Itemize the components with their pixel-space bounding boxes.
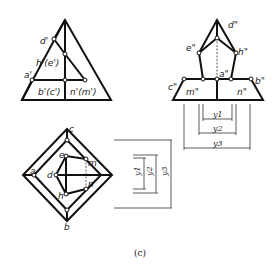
label-c-dbl: c" [168, 82, 177, 92]
point-n-prime [83, 78, 87, 82]
figure-caption: (c) [134, 248, 146, 258]
label-b-dbl: b" [255, 76, 265, 86]
side-view: d" e" h" a" c" b" m" n" y1 y2 y3 [168, 20, 265, 150]
point-h-prime [63, 52, 67, 56]
label-h-e-prime: h'(e') [36, 58, 59, 68]
top-dimensions: y1 y2 y3 [114, 140, 172, 208]
label-b-c-prime: b'(c') [38, 87, 61, 97]
dim-y2-side: y2 [212, 124, 223, 133]
label-h-dbl: h" [238, 47, 248, 57]
side-dimensions: y1 y2 y3 [184, 104, 250, 150]
point-mid-prime [63, 78, 67, 82]
dim-y3-top: y3 [160, 166, 169, 177]
point-d [54, 173, 58, 177]
point-base-left-dbl [201, 77, 205, 81]
label-n: n [88, 179, 94, 189]
label-d-dbl: d" [228, 20, 238, 30]
label-e: e [59, 150, 65, 160]
label-c: c [69, 124, 74, 134]
point-c-inner [65, 138, 69, 142]
point-d-dbl [215, 36, 219, 40]
label-n-m-prime: n'(m') [70, 87, 96, 97]
point-base-right-dbl [229, 77, 233, 81]
label-e-dbl: e" [186, 43, 196, 53]
label-d: d [47, 170, 53, 180]
dim-y3-side: y3 [212, 139, 223, 148]
point-b-inner [65, 208, 69, 212]
label-m-dbl: m" [186, 87, 199, 97]
label-h: h [58, 191, 64, 201]
label-a-prime: a' [24, 70, 32, 80]
label-a-dbl: a" [219, 69, 229, 79]
label-d-prime: d' [40, 36, 48, 46]
point-b-dbl [249, 77, 253, 81]
label-n-dbl: n" [237, 87, 247, 97]
point-e-dbl [197, 51, 201, 55]
point-h [64, 192, 68, 196]
point-c-dbl [182, 77, 186, 81]
label-a: a [30, 166, 36, 176]
front-view: d' h'(e') a' b'(c') n'(m') [22, 20, 111, 100]
point-e [64, 154, 68, 158]
front-left-edge [22, 80, 32, 100]
dim-y1-side: y1 [212, 110, 223, 119]
projection-drawing: d' h'(e') a' b'(c') n'(m') d" e" h" a" c… [0, 0, 280, 269]
label-b: b [64, 222, 70, 232]
label-m: m [88, 158, 97, 168]
top-view: c a e m d n h b y1 y2 y3 [23, 124, 172, 232]
dim-y1-top: y1 [133, 166, 142, 177]
dim-y2-top: y2 [145, 166, 154, 177]
point-d-prime [52, 37, 56, 41]
